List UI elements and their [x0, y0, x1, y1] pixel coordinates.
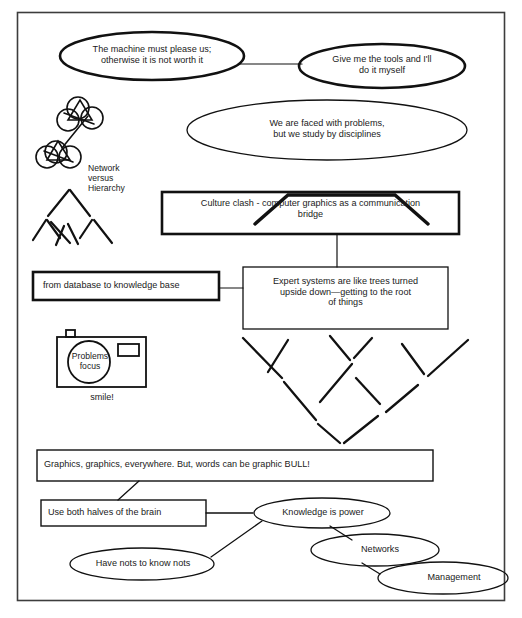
page-border: [18, 13, 505, 601]
diagram-svg: [0, 0, 522, 618]
diagram-canvas: The machine must please us; otherwise it…: [0, 0, 522, 618]
